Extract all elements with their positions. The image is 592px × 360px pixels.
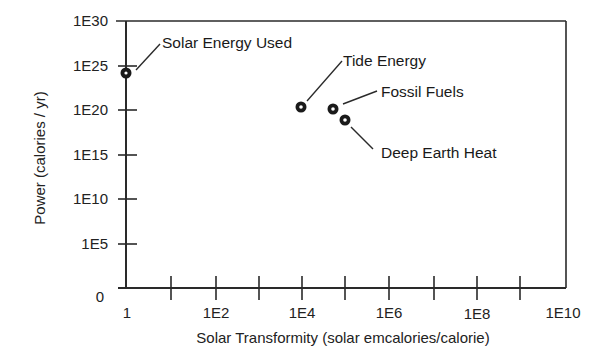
y-tick-1e10: 1E10 — [73, 190, 108, 207]
point-deep-earth-heat — [340, 115, 351, 126]
point-tide-energy — [296, 102, 307, 113]
label-deep-earth-heat: Deep Earth Heat — [381, 144, 497, 161]
y-tick-1e30: 1E30 — [73, 12, 108, 29]
chart: 1E30 1E25 1E20 1E15 1E10 1E5 0 1 1E2 1E4… — [0, 0, 592, 360]
y-axis-title: Power (calories / yr) — [31, 91, 48, 224]
x-tick-1e4: 1E4 — [289, 304, 316, 321]
x-tick-1e10: 1E10 — [545, 304, 580, 321]
y-tick-1e25: 1E25 — [73, 57, 108, 74]
x-axis-title: Solar Transformity (solar emcalories/cal… — [196, 329, 489, 346]
y-tick-1e5: 1E5 — [81, 235, 108, 252]
label-tide-energy: Tide Energy — [343, 52, 426, 69]
y-tick-labels: 1E30 1E25 1E20 1E15 1E10 1E5 0 — [73, 12, 108, 305]
y-tick-1e20: 1E20 — [73, 101, 108, 118]
y-tick-0: 0 — [96, 288, 104, 305]
plot-frame — [116, 21, 566, 288]
point-fossil-fuels — [328, 104, 339, 115]
y-tick-1e15: 1E15 — [73, 146, 108, 163]
point-solar-energy-used — [121, 68, 132, 79]
data-points — [121, 68, 351, 126]
x-tick-1e2: 1E2 — [203, 304, 230, 321]
label-solar-energy-used: Solar Energy Used — [162, 34, 292, 51]
leader-lines — [136, 44, 377, 149]
x-tick-1: 1 — [123, 304, 131, 321]
label-fossil-fuels: Fossil Fuels — [381, 83, 464, 100]
x-tick-labels: 1 1E2 1E4 1E6 1E8 1E10 — [123, 304, 581, 322]
x-tick-1e8: 1E8 — [464, 305, 491, 322]
x-tick-1e6: 1E6 — [376, 304, 403, 321]
annotations: Solar Energy Used Tide Energy Fossil Fue… — [162, 34, 497, 161]
y-ticks — [118, 66, 137, 244]
